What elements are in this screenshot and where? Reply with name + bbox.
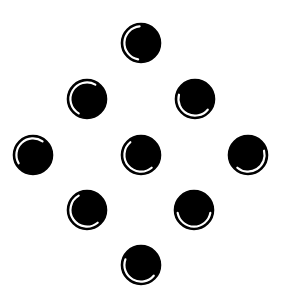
dot-disc	[175, 191, 214, 230]
dot-mid-left	[14, 136, 53, 175]
dot-disc	[122, 246, 161, 285]
dot-pattern-canvas	[0, 0, 285, 306]
dot-bottom	[122, 246, 161, 285]
dot-upper-left	[68, 80, 107, 119]
dot-disc	[176, 80, 215, 119]
dot-disc	[122, 24, 161, 63]
dot-upper-right	[176, 80, 215, 119]
dot-lower-left	[68, 191, 107, 230]
dot-lower-right	[175, 191, 214, 230]
dot-disc	[68, 191, 107, 230]
dot-disc	[122, 136, 161, 175]
dot-mid-right	[229, 136, 268, 175]
dot-disc	[68, 80, 107, 119]
dot-disc	[229, 136, 268, 175]
dot-centre	[122, 136, 161, 175]
dot-disc	[14, 136, 53, 175]
circles-layer	[14, 24, 268, 285]
dot-top	[122, 24, 161, 63]
